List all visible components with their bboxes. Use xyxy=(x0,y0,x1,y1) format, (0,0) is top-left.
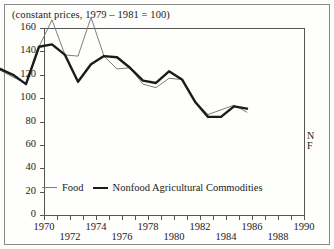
x-tick xyxy=(200,216,201,220)
x-tick xyxy=(226,216,227,220)
legend-label-nonfood: Nonfood Agricultural Commodities xyxy=(113,182,263,193)
x-tick xyxy=(57,216,58,220)
chart-figure: (constant prices, 1979 – 1981 = 100) 020… xyxy=(0,0,334,249)
x-tick-label: 1972 xyxy=(53,231,87,242)
x-tick xyxy=(187,216,188,220)
x-tick xyxy=(304,216,305,220)
x-tick xyxy=(135,216,136,220)
x-tick xyxy=(83,216,84,220)
legend-swatch-food-icon xyxy=(42,187,57,188)
x-tick xyxy=(122,216,123,220)
x-tick xyxy=(213,216,214,220)
end-label-food: F xyxy=(307,141,313,151)
x-tick xyxy=(96,216,97,220)
legend-entry-food: Food xyxy=(42,182,84,193)
series-line-food xyxy=(0,18,247,115)
x-tick xyxy=(252,216,253,220)
x-tick xyxy=(265,216,266,220)
x-tick xyxy=(44,216,45,220)
plot-right-rule xyxy=(304,28,305,216)
x-tick-label: 1984 xyxy=(209,231,243,242)
x-tick xyxy=(148,216,149,220)
x-tick xyxy=(239,216,240,220)
legend-swatch-nonfood-icon xyxy=(93,187,108,189)
chart-legend: Food Nonfood Agricultural Commodities xyxy=(42,182,263,193)
x-tick xyxy=(161,216,162,220)
x-tick xyxy=(109,216,110,220)
x-tick-label: 1988 xyxy=(261,231,295,242)
x-tick-label: 1980 xyxy=(157,231,191,242)
series-line-nonfood xyxy=(0,44,247,116)
x-tick xyxy=(278,216,279,220)
legend-label-food: Food xyxy=(62,182,84,193)
plot-area xyxy=(0,0,262,190)
y-tick-label: 0 xyxy=(6,208,36,219)
x-tick-label: 1976 xyxy=(105,231,139,242)
x-tick xyxy=(70,216,71,220)
x-tick xyxy=(291,216,292,220)
x-tick xyxy=(174,216,175,220)
legend-entry-nonfood: Nonfood Agricultural Commodities xyxy=(93,182,263,193)
